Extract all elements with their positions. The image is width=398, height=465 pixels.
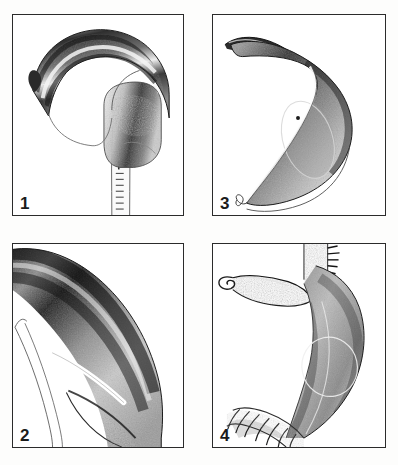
figure-panel-3: 3	[212, 14, 386, 216]
panel-3-illustration	[213, 15, 385, 215]
panel-4-illustration	[213, 244, 385, 447]
bristles	[328, 246, 340, 274]
panel-2-illustration	[13, 244, 183, 447]
figure-plate: 1	[0, 0, 398, 465]
figure-panel-4: 4	[212, 243, 386, 448]
panel-number-4: 4	[220, 427, 229, 444]
panel-number-1: 1	[20, 195, 29, 212]
figure-panel-2: 2	[12, 243, 184, 448]
figure-panel-1: 1	[12, 14, 184, 216]
panel-number-3: 3	[220, 195, 229, 212]
panel-1-illustration	[13, 15, 183, 215]
panel-number-2: 2	[20, 427, 29, 444]
